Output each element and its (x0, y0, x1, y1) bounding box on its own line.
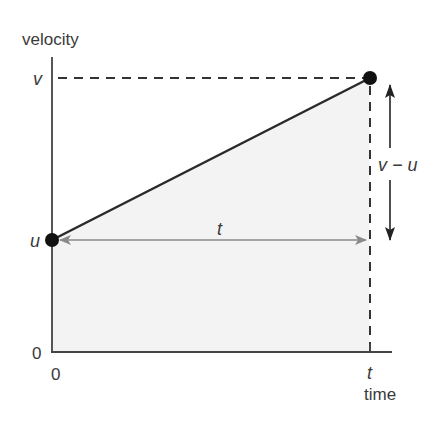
velocity-time-diagram: velocity v u 0 0 t time t v − u (0, 0, 448, 423)
end-point-v (363, 71, 377, 85)
start-point-u (45, 233, 59, 247)
y-tick-u: u (30, 231, 40, 251)
y-tick-origin: 0 (32, 344, 41, 363)
x-tick-origin: 0 (51, 365, 60, 384)
velocity-change-label: v − u (378, 155, 418, 175)
x-axis-label: time (364, 385, 396, 404)
x-tick-t-label: t (367, 363, 373, 383)
y-axis-label: velocity (22, 30, 79, 49)
y-tick-v: v (33, 69, 43, 89)
